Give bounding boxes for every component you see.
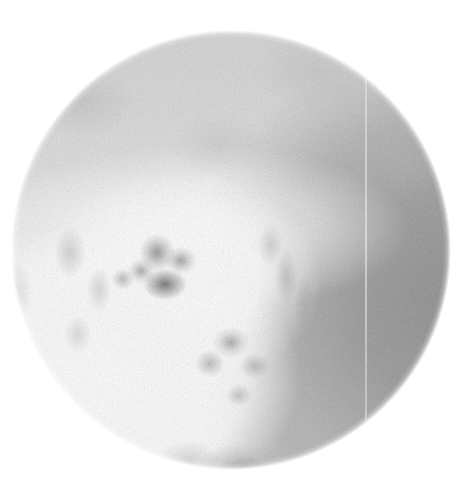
anatomic-structures-overlay <box>11 30 451 470</box>
vertical-seam-artifact-line <box>365 30 367 470</box>
radiograph-viewer <box>0 0 469 491</box>
film-grain-texture <box>11 30 451 470</box>
circular-field-of-view <box>11 30 451 470</box>
film-grain-highlight-texture <box>11 30 451 470</box>
base-luminance-field <box>11 30 451 470</box>
